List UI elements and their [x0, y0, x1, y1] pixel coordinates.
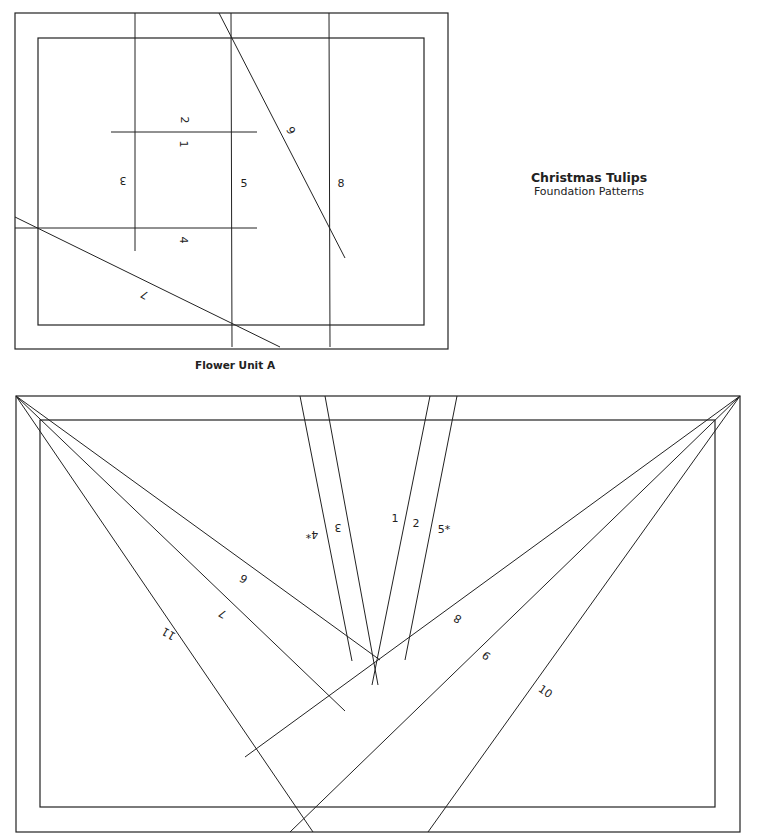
unitB-piece-label: 10 — [536, 682, 555, 701]
unitB-seam-line — [16, 396, 345, 711]
unitB-piece-label: 2 — [413, 517, 420, 530]
unitA-seam-line — [219, 13, 345, 258]
unitB-inner-border — [40, 420, 715, 807]
unitB-seam-line — [325, 396, 378, 685]
unitB-piece-label: 5* — [438, 523, 451, 536]
unitA-piece-label: 8 — [338, 177, 345, 190]
unitB-piece-label: 6 — [237, 571, 250, 586]
unitB-seam-line — [290, 396, 740, 832]
unitB-piece-label: 4* — [305, 528, 318, 541]
unitA-piece-label: 6 — [284, 124, 299, 137]
unitB-piece-label: 11 — [159, 624, 178, 642]
unitA-seam-line — [231, 13, 232, 347]
unitB-piece-label: 8 — [451, 611, 464, 626]
unitB-piece-label: 3 — [335, 521, 342, 534]
unitB-piece-label: 1 — [392, 512, 399, 525]
unitA-piece-label: 3 — [120, 174, 127, 187]
unitA-piece-label: 2 — [178, 117, 191, 124]
unitA-piece-label: 5 — [241, 177, 248, 190]
flower-unit-a-caption: Flower Unit A — [185, 359, 285, 371]
unitB-outer-border — [16, 396, 740, 832]
unitB-piece-label: 7 — [216, 606, 229, 621]
title-sub: Foundation Patterns — [504, 185, 674, 199]
unitA-piece-label: 7 — [138, 287, 151, 302]
unitB-seam-line — [428, 396, 740, 832]
unitA-piece-label: 4 — [177, 237, 190, 244]
unitA-seam-line — [15, 217, 280, 347]
title-main: Christmas Tulips — [504, 170, 674, 185]
pattern-canvas: 213586474*3125*67118910 — [0, 0, 757, 840]
unitA-piece-label: 1 — [177, 141, 190, 148]
unitB-seam-line — [245, 396, 740, 757]
pattern-title: Christmas Tulips Foundation Patterns — [504, 170, 674, 199]
unitB-piece-label: 9 — [480, 648, 494, 662]
unitA-seam-line — [329, 13, 330, 347]
unitB-seam-line — [372, 396, 430, 685]
unitB-seam-line — [16, 396, 313, 832]
